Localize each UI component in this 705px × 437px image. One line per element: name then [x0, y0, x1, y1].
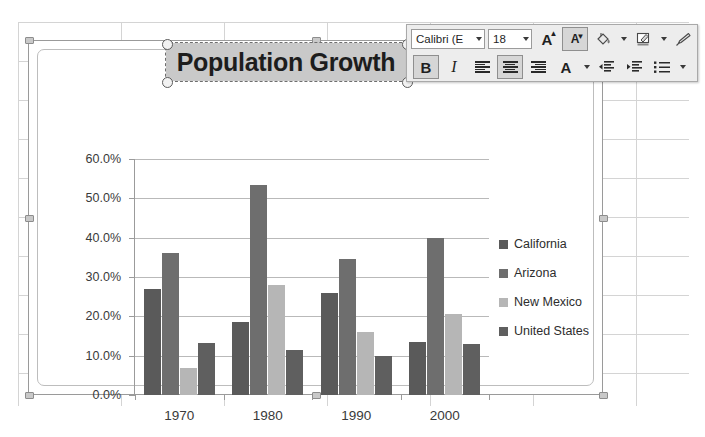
- bar-california-2000[interactable]: [409, 342, 426, 395]
- align-left-button[interactable]: [469, 55, 495, 79]
- format-painter-button[interactable]: [670, 27, 696, 51]
- chevron-down-icon[interactable]: [476, 37, 482, 41]
- y-axis-tick-label: 20.0%: [65, 309, 121, 323]
- x-axis-tick-mark: [135, 395, 136, 400]
- gridline: [135, 198, 489, 199]
- y-axis-tick-mark: [129, 159, 135, 160]
- chart-title-text: Population Growth: [177, 48, 395, 77]
- x-axis-tick-mark: [401, 395, 402, 400]
- y-axis-tick-mark: [129, 316, 135, 317]
- chart-handle-mid-right[interactable]: [599, 215, 608, 222]
- chart-handle-bottom-left[interactable]: [25, 392, 34, 399]
- chart-handle-mid-left[interactable]: [25, 215, 34, 222]
- bullet-list-icon: [654, 60, 671, 74]
- x-axis-tick-label: 1990: [312, 408, 400, 423]
- sheet-column-line: [18, 22, 19, 406]
- align-center-icon: [503, 61, 518, 73]
- paint-bucket-icon: [595, 31, 612, 47]
- legend-swatch-icon: [499, 327, 508, 336]
- grow-font-icon: A▲: [542, 31, 553, 48]
- title-handle-top-left[interactable]: [162, 39, 173, 50]
- legend-label: Arizona: [514, 266, 556, 280]
- legend-label: California: [514, 237, 567, 251]
- align-right-icon: [531, 61, 546, 73]
- bold-button[interactable]: B: [413, 55, 439, 79]
- x-axis-tick-mark: [224, 395, 225, 400]
- legend-label: New Mexico: [514, 295, 582, 309]
- font-name-value: Calibri (E: [416, 33, 463, 45]
- y-axis-tick-label: 60.0%: [65, 152, 121, 166]
- y-axis-tick-label: 30.0%: [65, 270, 121, 284]
- legend-item[interactable]: United States: [499, 324, 589, 338]
- shrink-font-button[interactable]: A▼: [562, 27, 588, 51]
- bar-arizona-1980[interactable]: [250, 185, 267, 395]
- bar-arizona-2000[interactable]: [427, 238, 444, 395]
- font-color-icon: A: [561, 59, 572, 76]
- legend-swatch-icon: [499, 269, 508, 278]
- bar-california-1970[interactable]: [144, 289, 161, 395]
- font-size-value: 18: [493, 33, 506, 45]
- decrease-indent-icon: [598, 60, 615, 74]
- chart-handle-bottom-center[interactable]: [312, 392, 321, 399]
- align-center-button[interactable]: [497, 55, 523, 79]
- sheet-row-line: [18, 22, 689, 23]
- y-axis-tick-label: 50.0%: [65, 191, 121, 205]
- gridline: [135, 159, 489, 160]
- decrease-indent-button[interactable]: [593, 55, 619, 79]
- y-axis-tick-mark: [129, 277, 135, 278]
- bold-icon: B: [421, 59, 432, 76]
- fill-color-button[interactable]: [590, 27, 616, 51]
- font-color-dropdown[interactable]: [579, 55, 591, 79]
- floating-mini-toolbar[interactable]: Calibri (E 18 A▲ A▼: [406, 24, 698, 82]
- increase-indent-button[interactable]: [621, 55, 647, 79]
- y-axis-tick-mark: [129, 238, 135, 239]
- fill-color-dropdown[interactable]: [616, 27, 628, 51]
- x-axis-tick-label: 1980: [224, 408, 312, 423]
- legend-item[interactable]: New Mexico: [499, 295, 589, 309]
- text-highlight-button[interactable]: [630, 27, 656, 51]
- chart-plot-area: 0.0%10.0%20.0%30.0%40.0%50.0%60.0%197019…: [135, 159, 489, 395]
- bar-united-states-2000[interactable]: [463, 344, 480, 395]
- bar-new-mexico-1970[interactable]: [180, 368, 197, 395]
- y-axis-tick-mark: [129, 356, 135, 357]
- bar-new-mexico-2000[interactable]: [445, 314, 462, 395]
- align-right-button[interactable]: [525, 55, 551, 79]
- font-size-combobox[interactable]: 18: [488, 29, 532, 49]
- chart-title[interactable]: Population Growth: [166, 43, 406, 81]
- legend-swatch-icon: [499, 240, 508, 249]
- bar-united-states-1970[interactable]: [198, 343, 215, 395]
- bullets-dropdown[interactable]: [675, 55, 687, 79]
- chart-handle-top-left[interactable]: [25, 37, 34, 44]
- bar-united-states-1980[interactable]: [286, 350, 303, 395]
- y-axis-tick-label: 10.0%: [65, 349, 121, 363]
- text-highlight-dropdown[interactable]: [656, 27, 668, 51]
- x-axis-tick-label: 2000: [401, 408, 489, 423]
- highlighter-icon: [635, 31, 652, 47]
- chart-handle-bottom-right[interactable]: [599, 392, 608, 399]
- grow-font-button[interactable]: A▲: [534, 27, 560, 51]
- y-axis-tick-label: 0.0%: [65, 388, 121, 402]
- shrink-font-icon: A▼: [571, 32, 580, 46]
- y-axis-tick-label: 40.0%: [65, 231, 121, 245]
- bar-new-mexico-1980[interactable]: [268, 285, 285, 395]
- bar-california-1980[interactable]: [232, 322, 249, 395]
- font-name-combobox[interactable]: Calibri (E: [411, 29, 485, 49]
- title-handle-bottom-left[interactable]: [162, 77, 173, 88]
- font-color-button[interactable]: A: [553, 55, 579, 79]
- italic-button[interactable]: I: [441, 55, 467, 79]
- format-painter-icon: [674, 31, 692, 47]
- chart-object[interactable]: 0.0%10.0%20.0%30.0%40.0%50.0%60.0%197019…: [28, 40, 603, 395]
- legend-swatch-icon: [499, 298, 508, 307]
- bar-new-mexico-1990[interactable]: [357, 332, 374, 395]
- bar-arizona-1970[interactable]: [162, 253, 179, 395]
- bullets-button[interactable]: [649, 55, 675, 79]
- legend-label: United States: [514, 324, 589, 338]
- bar-arizona-1990[interactable]: [339, 259, 356, 395]
- legend-item[interactable]: California: [499, 237, 589, 251]
- chart-legend[interactable]: CaliforniaArizonaNew MexicoUnited States: [499, 237, 589, 338]
- chevron-down-icon[interactable]: [523, 37, 529, 41]
- bar-united-states-1990[interactable]: [375, 356, 392, 395]
- bar-california-1990[interactable]: [321, 293, 338, 395]
- x-axis-tick-label: 1970: [135, 408, 223, 423]
- legend-item[interactable]: Arizona: [499, 266, 589, 280]
